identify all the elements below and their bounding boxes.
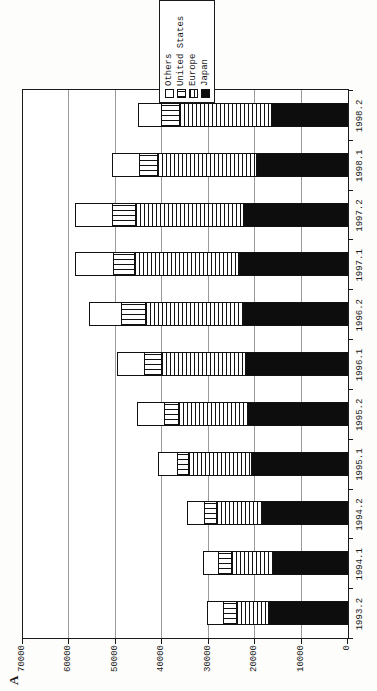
legend-swatch-europe: [189, 89, 198, 98]
category-boundary-tick-6: [348, 339, 353, 340]
value-tick-60000: [68, 639, 69, 644]
bar-1996.1-japan: [245, 352, 348, 376]
bar-1994.2-japan: [262, 501, 348, 525]
bar-1998.2-europe: [179, 103, 272, 127]
bar-1996.2-united-states: [121, 302, 146, 326]
category-boundary-tick-2: [348, 538, 353, 539]
bar-1995.1-europe: [188, 452, 252, 476]
value-tick-20000: [254, 639, 255, 644]
bar-1997.1-others: [75, 252, 114, 276]
legend-entry-others: Others: [163, 5, 175, 98]
bar-1993.2-others: [207, 601, 224, 625]
value-tick-label-60000: 60000: [63, 645, 73, 689]
plot-area: [22, 89, 349, 639]
category-boundary-tick-1: [348, 588, 353, 589]
category-boundary-tick-4: [348, 439, 353, 440]
legend-label-europe: Europe: [188, 54, 198, 86]
bar-1997.2-others: [75, 203, 113, 227]
value-tick-50000: [115, 639, 116, 644]
bar-1996.2-europe: [145, 302, 244, 326]
bar-1994.2-others: [187, 501, 205, 525]
bar-1993.2-united-states: [223, 601, 237, 625]
legend-label-japan: Japan: [200, 59, 210, 86]
bar-1997.1-united-states: [113, 252, 135, 276]
value-tick-30000: [208, 639, 209, 644]
value-tick-10000: [301, 639, 302, 644]
value-tick-label-50000: 50000: [110, 645, 120, 689]
bar-1994.1-others: [203, 551, 219, 575]
category-label-1998.2: 1998.2: [355, 86, 365, 146]
bar-1998.1-europe: [157, 153, 257, 177]
bar-1998.1-united-states: [139, 153, 158, 177]
value-tick-70000: [22, 639, 23, 644]
value-tick-0: [347, 639, 348, 644]
bar-1995.2-united-states: [164, 402, 179, 426]
legend-label-others: Others: [164, 54, 174, 86]
bar-1998.1-others: [112, 153, 140, 177]
bar-1997.2-europe: [135, 203, 244, 227]
bar-1995.1-united-states: [177, 452, 189, 476]
legend-box: OthersUnited StatesEuropeJapan: [159, 0, 215, 103]
bar-1993.2-japan: [268, 601, 348, 625]
value-tick-label-0: 0: [342, 645, 352, 689]
value-tick-label-20000: 20000: [249, 645, 259, 689]
value-tick-label-40000: 40000: [156, 645, 166, 689]
rotated-chart-canvas: A million US$ 01000020000300004000050000…: [0, 0, 377, 691]
bar-1996.1-united-states: [144, 352, 162, 376]
bar-1995.2-europe: [178, 402, 248, 426]
bar-1997.1-japan: [238, 252, 348, 276]
legend-entry-united-states: United States: [175, 5, 187, 98]
bar-1998.2-united-states: [161, 103, 180, 127]
bar-1994.2-europe: [216, 501, 263, 525]
bar-1994.2-united-states: [204, 501, 217, 525]
bar-1993.2-europe: [236, 601, 269, 625]
value-tick-label-10000: 10000: [296, 645, 306, 689]
bar-1997.2-united-states: [112, 203, 136, 227]
bar-1996.2-japan: [243, 302, 348, 326]
category-boundary-tick-8: [348, 239, 353, 240]
category-boundary-tick-0: [348, 638, 353, 639]
bar-1996.1-europe: [161, 352, 246, 376]
legend-swatch-japan: [201, 89, 210, 98]
bar-1997.1-europe: [134, 252, 239, 276]
bar-1995.2-others: [137, 402, 165, 426]
gridline-60000: [68, 90, 69, 638]
bar-1996.1-others: [117, 352, 145, 376]
category-boundary-tick-7: [348, 289, 353, 290]
figure-page: A million US$ 01000020000300004000050000…: [0, 0, 377, 691]
bar-1996.2-others: [89, 302, 122, 326]
legend-entry-europe: Europe: [187, 5, 199, 98]
bar-1995.1-japan: [251, 452, 348, 476]
category-boundary-tick-10: [348, 140, 353, 141]
bar-1998.2-japan: [271, 103, 348, 127]
legend-swatch-united-states: [177, 89, 186, 98]
value-tick-label-70000: 70000: [17, 645, 27, 689]
bar-1994.1-united-states: [218, 551, 232, 575]
bar-1995.2-japan: [247, 402, 348, 426]
value-tick-label-30000: 30000: [203, 645, 213, 689]
bar-1998.2-others: [138, 103, 162, 127]
bar-1994.1-japan: [272, 551, 348, 575]
legend-entry-japan: Japan: [199, 5, 211, 98]
category-boundary-tick-3: [348, 489, 353, 490]
legend-swatch-others: [165, 89, 174, 98]
bar-1997.2-japan: [243, 203, 348, 227]
bar-1995.1-others: [158, 452, 178, 476]
legend-label-united-states: United States: [176, 16, 186, 86]
value-tick-40000: [161, 639, 162, 644]
category-boundary-tick-5: [348, 389, 353, 390]
bar-1998.1-japan: [256, 153, 348, 177]
category-boundary-tick-9: [348, 190, 353, 191]
category-boundary-tick-11: [348, 90, 353, 91]
bar-1994.1-europe: [231, 551, 273, 575]
